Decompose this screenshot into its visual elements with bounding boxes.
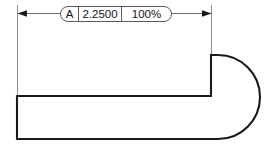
drawing-canvas: A 2.2500 100% [0,0,270,154]
arrow-right-icon [202,10,212,16]
callout-scale-value: 100% [132,8,161,20]
callout-datum-label: A [66,8,74,20]
arrow-left-icon [18,10,28,16]
technical-drawing: A 2.2500 100% [0,0,270,154]
part-outline-path [17,55,260,139]
callout-dimension-value: 2.2500 [82,8,117,20]
